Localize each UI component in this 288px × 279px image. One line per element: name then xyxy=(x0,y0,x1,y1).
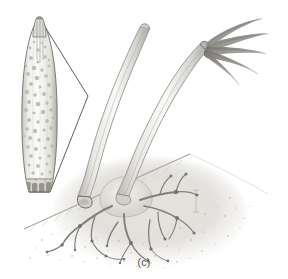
figure-panel-c: (c) xyxy=(0,0,288,279)
illustration-canvas xyxy=(0,0,288,279)
